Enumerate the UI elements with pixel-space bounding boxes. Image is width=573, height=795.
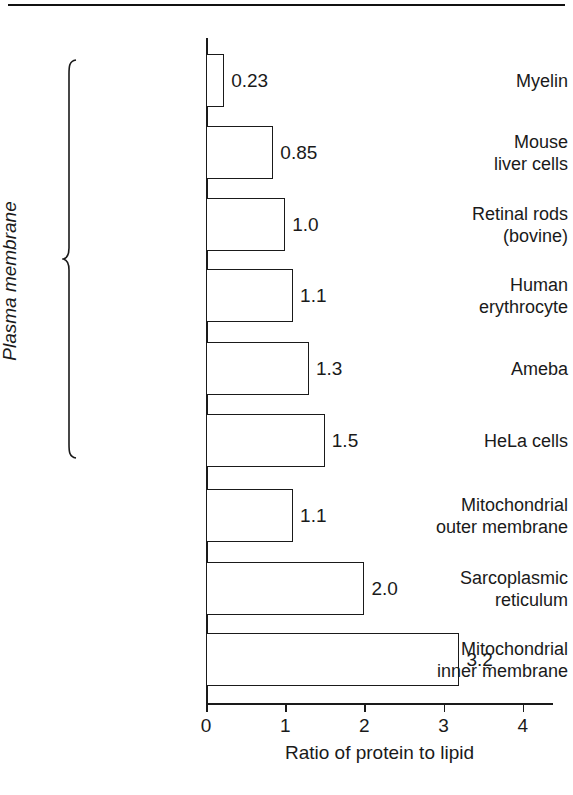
category-label: Ameba bbox=[373, 358, 573, 380]
bar-value-label: 1.1 bbox=[300, 286, 326, 306]
bar bbox=[206, 562, 364, 615]
bar bbox=[206, 269, 293, 322]
figure-canvas: Plasma membrane 01234 0.23Myelin0.85Mous… bbox=[0, 0, 573, 795]
x-tick-label-2: 2 bbox=[344, 714, 384, 737]
category-label-line: liver cells bbox=[373, 153, 568, 175]
bar bbox=[206, 342, 309, 395]
bar bbox=[206, 198, 285, 251]
category-label: Mitochondrialinner membrane bbox=[373, 638, 573, 682]
category-label-line: inner membrane bbox=[373, 660, 568, 682]
x-tick-2 bbox=[364, 703, 366, 712]
category-label-line: Mitochondrial bbox=[373, 638, 568, 660]
brace-icon bbox=[62, 58, 78, 460]
category-label: Sarcoplasmicreticulum bbox=[373, 567, 573, 611]
category-label-line: Ameba bbox=[373, 358, 568, 380]
category-label: Retinal rods(bovine) bbox=[373, 203, 573, 247]
x-axis-title: Ratio of protein to lipid bbox=[206, 741, 553, 765]
x-tick-label-4: 4 bbox=[503, 714, 543, 737]
category-label-line: reticulum bbox=[373, 589, 568, 611]
category-label: Humanerythrocyte bbox=[373, 274, 573, 318]
x-tick-0 bbox=[206, 703, 208, 712]
x-tick-3 bbox=[444, 703, 446, 712]
bar-value-label: 0.85 bbox=[280, 143, 317, 163]
category-label-line: Mitochondrial bbox=[373, 494, 568, 516]
bar-value-label: 0.23 bbox=[231, 71, 268, 91]
plasma-membrane-brace bbox=[62, 58, 78, 460]
group-label-plasma-membrane: Plasma membrane bbox=[0, 151, 21, 411]
category-label-line: (bovine) bbox=[373, 225, 568, 247]
top-divider-rule bbox=[8, 4, 565, 6]
bar-value-label: 1.1 bbox=[300, 506, 326, 526]
x-tick-label-0: 0 bbox=[186, 714, 226, 737]
category-label-line: HeLa cells bbox=[373, 430, 568, 452]
category-label-line: erythrocyte bbox=[373, 296, 568, 318]
category-label-line: Retinal rods bbox=[373, 203, 568, 225]
category-label-line: Sarcoplasmic bbox=[373, 567, 568, 589]
category-label: Myelin bbox=[373, 70, 573, 92]
category-label-line: Human bbox=[373, 274, 568, 296]
category-label-line: Mouse bbox=[373, 131, 568, 153]
x-tick-4 bbox=[523, 703, 525, 712]
category-label: Mouseliver cells bbox=[373, 131, 573, 175]
bar bbox=[206, 414, 325, 467]
category-label: Mitochondrialouter membrane bbox=[373, 494, 573, 538]
bar-value-label: 1.0 bbox=[292, 215, 318, 235]
x-tick-1 bbox=[285, 703, 287, 712]
category-label-line: Myelin bbox=[373, 70, 568, 92]
bar bbox=[206, 489, 293, 542]
category-label-line: outer membrane bbox=[373, 516, 568, 538]
x-tick-label-3: 3 bbox=[424, 714, 464, 737]
bar bbox=[206, 126, 273, 179]
bar-value-label: 1.5 bbox=[332, 431, 358, 451]
category-label: HeLa cells bbox=[373, 430, 573, 452]
bar-value-label: 1.3 bbox=[316, 359, 342, 379]
x-tick-label-1: 1 bbox=[265, 714, 305, 737]
bar bbox=[206, 54, 224, 107]
x-axis-line bbox=[206, 703, 553, 705]
